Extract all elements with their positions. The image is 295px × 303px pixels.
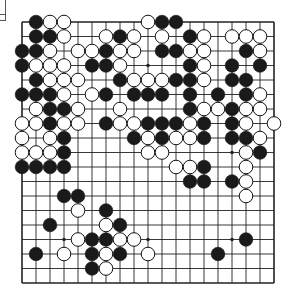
black-stone <box>113 247 127 261</box>
white-stone <box>253 131 267 145</box>
white-stone <box>183 44 197 58</box>
black-stone <box>239 44 253 58</box>
black-stone <box>43 30 57 44</box>
white-stone <box>211 102 225 116</box>
black-stone <box>15 160 29 174</box>
star-point <box>146 238 150 242</box>
black-stone <box>57 189 71 203</box>
white-stone <box>253 30 267 44</box>
white-stone <box>57 73 71 87</box>
white-stone <box>113 102 127 116</box>
black-stone <box>113 73 127 87</box>
white-stone <box>43 131 57 145</box>
black-stone <box>155 44 169 58</box>
white-stone <box>141 15 155 29</box>
black-stone <box>141 117 155 131</box>
black-stone <box>155 131 169 145</box>
black-stone <box>113 30 127 44</box>
black-stone <box>43 117 57 131</box>
white-stone <box>29 102 43 116</box>
white-stone <box>99 218 113 232</box>
black-stone <box>57 102 71 116</box>
white-stone <box>239 30 253 44</box>
white-stone <box>113 117 127 131</box>
white-stone <box>183 131 197 145</box>
white-stone <box>141 146 155 160</box>
star-point <box>62 238 66 242</box>
black-stone <box>43 218 57 232</box>
white-stone <box>127 233 141 247</box>
black-stone <box>99 59 113 73</box>
white-stone <box>43 73 57 87</box>
black-stone <box>127 131 141 145</box>
black-stone <box>183 59 197 73</box>
black-stone <box>211 247 225 261</box>
white-stone <box>113 59 127 73</box>
white-stone <box>155 146 169 160</box>
go-board[interactable] <box>0 0 295 303</box>
white-stone <box>15 117 29 131</box>
black-stone <box>29 247 43 261</box>
black-stone <box>197 175 211 189</box>
star-point <box>230 238 234 242</box>
black-stone <box>99 233 113 247</box>
white-stone <box>99 262 113 276</box>
black-stone <box>15 44 29 58</box>
black-stone <box>85 59 99 73</box>
white-stone <box>29 146 43 160</box>
black-stone <box>253 59 267 73</box>
black-stone <box>71 189 85 203</box>
white-stone <box>169 131 183 145</box>
white-stone <box>253 102 267 116</box>
white-stone <box>57 15 71 29</box>
star-point <box>146 64 150 68</box>
black-stone <box>253 146 267 160</box>
white-stone <box>43 15 57 29</box>
white-stone <box>239 146 253 160</box>
white-stone <box>57 117 71 131</box>
white-stone <box>113 233 127 247</box>
white-stone <box>141 73 155 87</box>
white-stone <box>85 88 99 102</box>
black-stone <box>99 117 113 131</box>
black-stone <box>57 131 71 145</box>
black-stone <box>225 131 239 145</box>
black-stone <box>155 15 169 29</box>
white-stone <box>43 44 57 58</box>
black-stone <box>15 59 29 73</box>
black-stone <box>29 88 43 102</box>
black-stone <box>99 204 113 218</box>
white-stone <box>29 59 43 73</box>
black-stone <box>211 88 225 102</box>
white-stone <box>71 102 85 116</box>
black-stone <box>85 233 99 247</box>
white-stone <box>155 73 169 87</box>
white-stone <box>29 117 43 131</box>
white-stone <box>225 30 239 44</box>
black-stone <box>183 102 197 116</box>
black-stone <box>43 88 57 102</box>
black-stone <box>29 160 43 174</box>
white-stone <box>43 59 57 73</box>
black-stone <box>15 88 29 102</box>
black-stone <box>239 88 253 102</box>
black-stone <box>225 175 239 189</box>
white-stone <box>267 117 281 131</box>
white-stone <box>239 175 253 189</box>
black-stone <box>169 73 183 87</box>
black-stone <box>225 59 239 73</box>
black-stone <box>57 160 71 174</box>
white-stone <box>253 44 267 58</box>
white-stone <box>127 117 141 131</box>
white-stone <box>71 44 85 58</box>
black-stone <box>29 15 43 29</box>
black-stone <box>225 102 239 116</box>
black-stone <box>225 73 239 87</box>
black-stone <box>43 102 57 116</box>
black-stone <box>183 175 197 189</box>
white-stone <box>57 59 71 73</box>
white-stone <box>183 117 197 131</box>
white-stone <box>197 59 211 73</box>
white-stone <box>71 233 85 247</box>
black-stone <box>29 30 43 44</box>
